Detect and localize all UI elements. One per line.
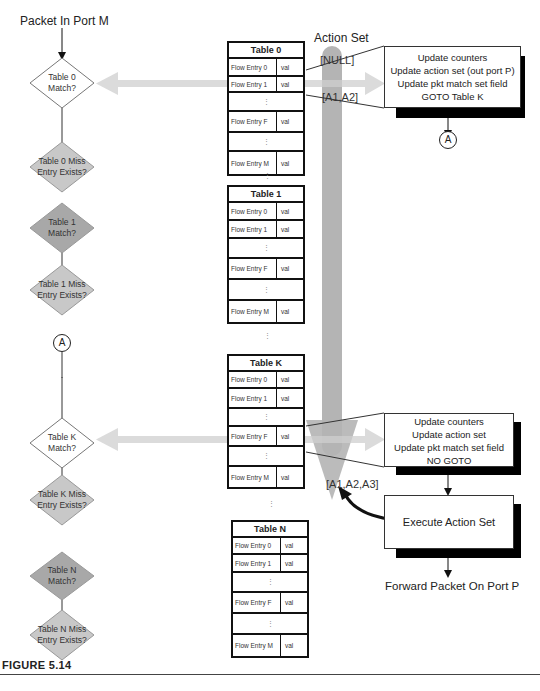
start-label: Packet In Port M [20,14,109,28]
decision-label: Table 1Match? [27,217,97,239]
flow-entry-row: Flow Entry Mval [229,467,303,487]
flow-entry-row: Flow Entry Mval [229,152,303,174]
flow-table-0: Table 0 Flow Entry 0val Flow Entry 1val … [227,41,305,176]
action-set-title: Action Set [314,31,369,45]
decision-label: Table 0Match? [27,72,97,94]
flow-entry-row: Flow Entry 0val [233,538,307,555]
between-dots: ⋮ [264,332,271,340]
table-title: Table N [233,522,307,538]
decision-label: Table KMatch? [27,432,97,454]
decision-label: Table 0 MissEntry Exists? [27,156,97,178]
between-dots: ⋮ [268,500,275,508]
flow-entry-row: Flow Entry Mval [233,635,307,656]
connector-a-left: A [53,334,71,352]
flow-entry-row: Flow Entry 1val [229,221,303,239]
decision-label: Table K MissEntry Exists? [27,489,97,511]
flow-table-k: Table K Flow Entry 0val Flow Entry 1val … [227,354,305,489]
table-title: Table K [229,356,303,372]
flow-entry-row: Flow Entry 1val [229,77,303,93]
ellipsis-row: ⋮ [229,239,303,259]
decision-label: Table NMatch? [27,565,97,587]
table-title: Table 0 [229,43,303,59]
ellipsis-row: ⋮ [229,93,303,112]
action-set-state-a1a2a3: [A1,A2,A3] [326,478,379,490]
ellipsis-row: ⋮ [229,133,303,152]
ellipsis-row: ⋮ [233,614,307,635]
action-set-bar [306,46,358,500]
flow-entry-row: Flow Entry Fval [233,593,307,614]
connector-a-right: A [439,131,457,149]
table-title: Table 1 [229,187,303,203]
table0-instructions-callout: Update counters Update action set (out p… [384,46,521,108]
ellipsis-row: ⋮ [229,409,303,427]
between-dots: ⋮ [264,172,271,180]
flow-table-1: Table 1 Flow Entry 0val Flow Entry 1val … [227,185,305,324]
tablek-instructions-callout: Update counters Update action set Update… [384,413,514,467]
decision-label: Table N MissEntry Exists? [27,624,97,646]
flow-entry-row: Flow Entry Fval [229,112,303,133]
decision-label: Table 1 MissEntry Exists? [27,279,97,301]
figure-label: FIGURE 5.14 [2,659,71,671]
ellipsis-row: ⋮ [229,447,303,467]
flow-entry-row: Flow Entry Fval [229,427,303,447]
forward-label: Forward Packet On Port P [385,580,519,592]
flow-table-n: Table N Flow Entry 0val Flow Entry 1val … [231,520,309,658]
execute-action-set-box: Execute Action Set [384,495,514,549]
flow-entry-row: Flow Entry 0val [229,203,303,221]
flow-entry-row: Flow Entry 0val [229,59,303,77]
action-set-state-null: [NULL] [320,54,354,66]
flow-entry-row: Flow Entry 1val [229,389,303,409]
flow-entry-row: Flow Entry 1val [233,555,307,573]
ellipsis-row: ⋮ [229,280,303,301]
flow-entry-row: Flow Entry Mval [229,301,303,322]
caption-rule [0,674,540,675]
action-set-state-a1a2: [A1,A2] [322,91,358,103]
ellipsis-row: ⋮ [233,573,307,593]
flow-entry-row: Flow Entry Fval [229,259,303,280]
flow-entry-row: Flow Entry 0val [229,372,303,389]
